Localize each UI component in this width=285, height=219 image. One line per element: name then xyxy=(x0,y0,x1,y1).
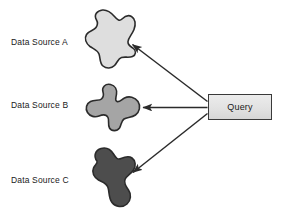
arrow-query-to-source-c xyxy=(133,114,208,173)
data-source-c-label: Data Source C xyxy=(11,176,69,185)
data-source-a-label: Data Source A xyxy=(11,38,68,47)
data-source-b-blob xyxy=(86,84,139,130)
diagram-canvas: Data Source A Data Source B Data Source … xyxy=(0,0,285,219)
data-source-b-label: Data Source B xyxy=(11,101,68,110)
arrow-query-to-source-a xyxy=(133,45,208,102)
data-source-a-blob xyxy=(85,10,135,68)
data-source-c-blob xyxy=(93,148,135,206)
query-node-label: Query xyxy=(227,103,253,112)
query-node[interactable]: Query xyxy=(208,94,272,120)
